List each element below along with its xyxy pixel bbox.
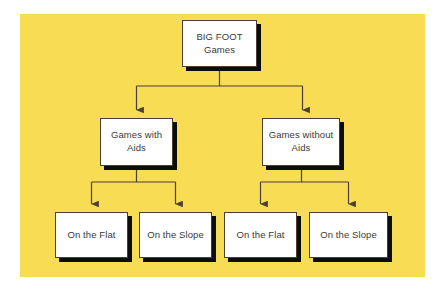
diagram-root: BIG FOOT Games Games with Aids Games wit… [0, 0, 447, 294]
node-on-the-flat-with-aids[interactable]: On the Flat [55, 212, 128, 258]
node-label-flat-a: On the Flat [64, 229, 118, 242]
node-label-slope-b: On the Slope [317, 229, 380, 242]
node-label-root: BIG FOOT Games [193, 31, 245, 56]
connector-without-aids-to-children [261, 166, 349, 204]
connector-root-to-level2 [137, 67, 303, 110]
node-label-with-aids: Games with Aids [108, 129, 165, 154]
node-games-without-aids[interactable]: Games without Aids [262, 118, 340, 166]
node-label-flat-b: On the Flat [233, 229, 287, 242]
node-on-the-slope-with-aids[interactable]: On the Slope [139, 212, 212, 258]
node-on-the-flat-without-aids[interactable]: On the Flat [224, 212, 297, 258]
node-big-foot-games[interactable]: BIG FOOT Games [182, 20, 257, 67]
connector-with-aids-to-children [92, 166, 176, 204]
node-on-the-slope-without-aids[interactable]: On the Slope [309, 212, 388, 258]
node-label-slope-a: On the Slope [144, 229, 207, 242]
node-games-with-aids[interactable]: Games with Aids [100, 118, 173, 166]
node-label-without-aids: Games without Aids [266, 129, 337, 154]
